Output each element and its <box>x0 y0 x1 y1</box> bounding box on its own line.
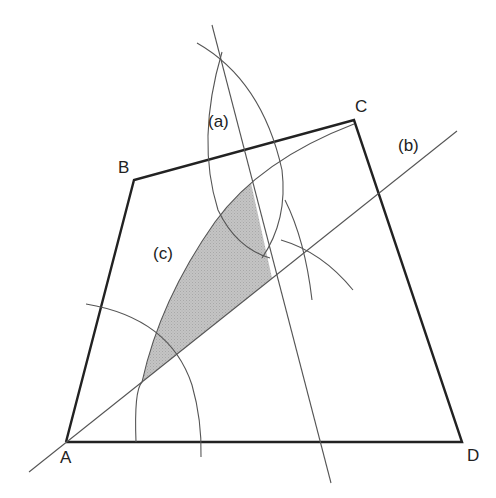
geometry-construction-diagram <box>0 0 496 498</box>
annotation-c: (c) <box>153 245 173 262</box>
vertex-label-b: B <box>118 159 129 176</box>
annotation-a: (a) <box>208 113 229 130</box>
vertex-label-c: C <box>355 98 367 115</box>
construction-arc-bisector-2 <box>281 240 353 290</box>
shaded-region <box>142 183 272 382</box>
vertex-label-d: D <box>467 447 479 464</box>
vertex-label-a: A <box>60 449 71 466</box>
angle-bisector-line-b <box>29 131 457 472</box>
annotation-b: (b) <box>398 137 419 154</box>
